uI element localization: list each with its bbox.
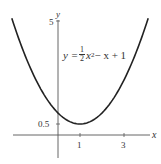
xtick-1-label: 1	[77, 140, 82, 150]
eq-lhs: y =	[63, 49, 78, 61]
eq-numerator: 1	[80, 46, 84, 54]
x-axis-label: x	[151, 129, 157, 140]
equation-annotation: y = 1 2 x2 − x + 1	[63, 46, 126, 63]
ytick-05-label: 0.5	[38, 119, 50, 129]
eq-fraction: 1 2	[79, 46, 85, 63]
parabola-curve	[12, 18, 148, 124]
ytick-5-label: 5	[49, 17, 54, 27]
y-axis-label: y	[55, 9, 60, 19]
eq-denominator: 2	[80, 55, 84, 63]
eq-rest: − x + 1	[94, 49, 126, 61]
xtick-3-label: 3	[121, 140, 126, 150]
parabola-chart: x y 1 3 0.5 5	[0, 0, 161, 164]
